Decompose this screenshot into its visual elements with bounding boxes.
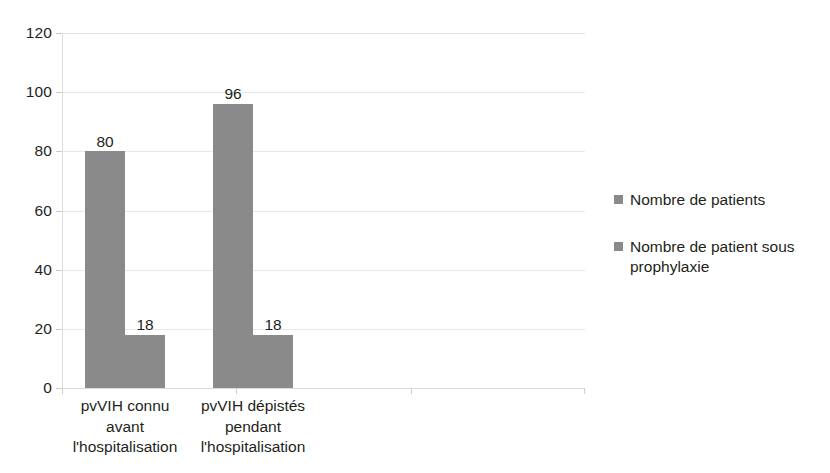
y-axis-label-0: 0 xyxy=(4,380,52,396)
bar-group1-series2 xyxy=(125,335,165,388)
x-axis-line xyxy=(62,388,585,389)
bar-group2-series1 xyxy=(213,104,253,388)
chart-legend: Nombre de patients Nombre de patient sou… xyxy=(614,190,826,304)
y-axis-label-80: 80 xyxy=(4,144,52,160)
y-tick-80 xyxy=(56,151,62,152)
legend-swatch-icon-1 xyxy=(614,195,623,204)
legend-label-2: Nombre de patient sous prophylaxie xyxy=(630,237,816,278)
y-axis-label-100: 100 xyxy=(4,84,52,100)
bar-label-group1-series2: 18 xyxy=(136,317,153,333)
gridline-40 xyxy=(62,270,585,271)
y-axis-label-40: 40 xyxy=(4,262,52,278)
x-tick-mid-2 xyxy=(411,388,412,394)
legend-swatch-icon-2 xyxy=(614,242,623,251)
y-tick-120 xyxy=(56,33,62,34)
y-tick-60 xyxy=(56,211,62,212)
y-axis-labels: 120 100 80 60 40 20 0 xyxy=(0,33,52,388)
y-tick-100 xyxy=(56,92,62,93)
x-axis-category-labels: pvVIH connu avant l'hospitalisation pvVI… xyxy=(62,396,585,466)
x-tick-start xyxy=(62,388,63,394)
gridline-60 xyxy=(62,211,585,212)
y-tick-20 xyxy=(56,329,62,330)
y-tick-40 xyxy=(56,270,62,271)
plot-area: 80 18 96 18 xyxy=(62,33,585,388)
y-axis-label-60: 60 xyxy=(4,203,52,219)
legend-item-nombre-de-patient-sous-prophylaxie: Nombre de patient sous prophylaxie xyxy=(614,237,826,278)
legend-item-nombre-de-patients: Nombre de patients xyxy=(614,190,826,211)
bar-label-group2-series1: 96 xyxy=(224,86,241,102)
bar-group2-series2 xyxy=(253,335,293,388)
x-axis-category-2: pvVIH dépistés pendant l'hospitalisation xyxy=(173,396,333,458)
y-axis-label-120: 120 xyxy=(4,25,52,41)
bar-label-group2-series2: 18 xyxy=(264,317,281,333)
bar-label-group1-series1: 80 xyxy=(96,134,113,150)
bar-group1-series1 xyxy=(85,151,125,388)
x-tick-end xyxy=(584,388,585,394)
legend-label-1: Nombre de patients xyxy=(630,190,765,211)
y-axis-label-20: 20 xyxy=(4,321,52,337)
gridline-100 xyxy=(62,92,585,93)
bar-chart: 120 100 80 60 40 20 0 xyxy=(0,0,830,473)
gridline-80 xyxy=(62,151,585,152)
x-tick-mid-1 xyxy=(236,388,237,394)
gridline-120 xyxy=(62,33,585,34)
